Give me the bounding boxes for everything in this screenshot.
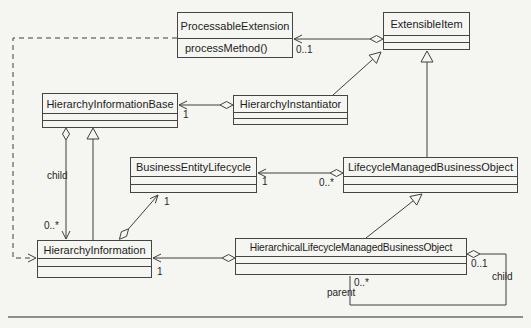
class-business-entity-lifecycle: BusinessEntityLifecycle xyxy=(130,157,257,193)
aggregation-extensibleitem-processableextension xyxy=(294,35,383,43)
generalization-hierarchyinstantiator-extensibleitem xyxy=(333,52,381,95)
class-operations xyxy=(384,42,469,49)
class-name: LifecycleManagedBusinessObject xyxy=(344,158,517,176)
class-name: HierarchyInstantiator xyxy=(234,96,347,112)
multiplicity-label: 0..* xyxy=(44,220,59,231)
class-name: ProcessableExtension xyxy=(178,13,292,38)
role-label-child: child xyxy=(47,170,68,181)
class-attributes xyxy=(38,258,151,266)
class-name: HierarchyInformationBase xyxy=(43,94,177,113)
uml-class-diagram: ProcessableExtension processMethod() Ext… xyxy=(0,0,531,328)
generalization-hlmbo-lmbo xyxy=(366,194,422,238)
aggregation-hib-hierarchyinformation-child xyxy=(62,128,70,239)
multiplicity-label: 0..* xyxy=(354,277,369,288)
class-operations: processMethod() xyxy=(178,38,292,57)
class-name: BusinessEntityLifecycle xyxy=(131,158,256,176)
aggregation-hlmbo-hierarchyinformation xyxy=(153,254,235,262)
class-lifecycle-managed-business-object: LifecycleManagedBusinessObject xyxy=(343,157,518,193)
class-operations xyxy=(43,120,177,127)
class-attributes xyxy=(384,35,469,42)
generalization-hierarchyinformation-hib xyxy=(87,128,99,240)
class-attributes xyxy=(131,176,256,184)
class-hierarchy-information: HierarchyInformation xyxy=(37,240,152,278)
class-attributes xyxy=(236,256,466,263)
multiplicity-label: 0..1 xyxy=(296,44,313,55)
class-name: HierarchicalLifecycleManagedBusinessObje… xyxy=(236,239,466,256)
class-operations xyxy=(38,266,151,277)
multiplicity-label: 1 xyxy=(183,109,189,120)
multiplicity-label: 1 xyxy=(164,196,170,207)
multiplicity-label: 1 xyxy=(262,176,268,187)
dashed-dependency-processableextension-hierarchyinformation xyxy=(13,38,177,262)
class-operations xyxy=(131,184,256,192)
class-processable-extension: ProcessableExtension processMethod() xyxy=(177,12,293,58)
class-operations xyxy=(344,184,517,192)
role-label-parent: parent xyxy=(327,287,355,298)
class-operations xyxy=(236,263,466,274)
class-name: ExtensibleItem xyxy=(384,13,469,35)
aggregation-hierarchyinformation-businessentitylifecycle xyxy=(119,195,158,239)
class-attributes xyxy=(43,113,177,120)
class-hierarchy-instantiator: HierarchyInstantiator xyxy=(233,95,348,125)
generalization-lifecyclemanagedbusinessobject-extensibleitem xyxy=(421,51,433,157)
class-hierarchy-information-base: HierarchyInformationBase xyxy=(42,93,178,128)
class-extensible-item: ExtensibleItem xyxy=(383,12,470,50)
aggregation-hierarchyinstantiator-hierarchyinformationbase xyxy=(179,101,233,109)
class-name: HierarchyInformation xyxy=(38,241,151,258)
class-hierarchical-lifecycle-managed-business-object: HierarchicalLifecycleManagedBusinessObje… xyxy=(235,238,467,275)
multiplicity-label: 0..1 xyxy=(471,258,488,269)
multiplicity-label: 1 xyxy=(157,266,163,277)
class-operations xyxy=(234,118,347,124)
role-label-child: child xyxy=(492,271,513,282)
class-attributes xyxy=(344,176,517,184)
aggregation-lmbo-businessentitylifecycle xyxy=(258,169,343,177)
multiplicity-label: 0..* xyxy=(319,177,334,188)
